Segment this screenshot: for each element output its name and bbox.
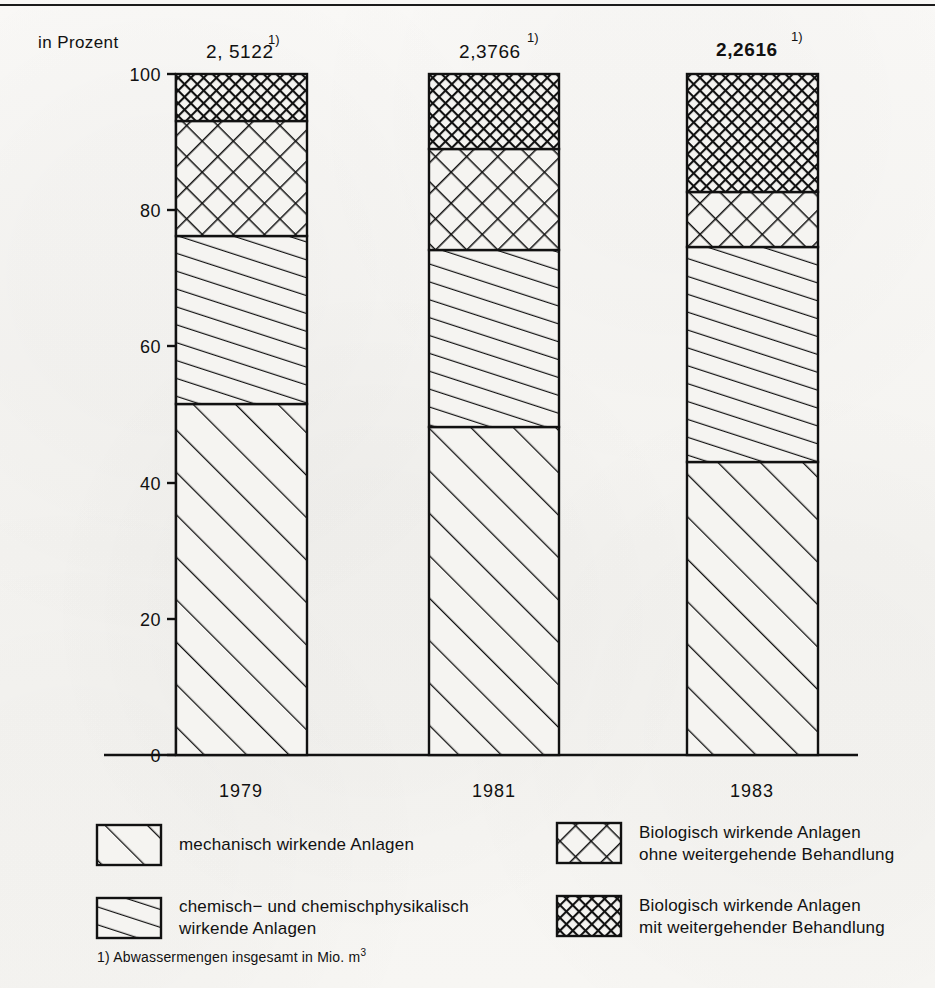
y-axis [167, 73, 176, 755]
x-tick-label-1979: 1979 [219, 781, 263, 801]
bar-total-superscript-1981: 1) [527, 30, 539, 45]
y-axis-unit-label: in Prozent [38, 33, 119, 52]
bar-segment-mechanisch-1983[interactable] [687, 462, 818, 755]
bar-segment-bio-mit-1983[interactable] [687, 74, 818, 192]
bar-segment-bio-mit-1981[interactable] [429, 74, 559, 149]
chart-page: 100 80 60 40 20 0 in Prozent 2, 5122 1) … [0, 0, 935, 988]
bar-segment-bio-ohne-1981[interactable] [429, 149, 559, 250]
bar-segment-mechanisch-1979[interactable] [176, 404, 307, 755]
legend-swatch-mechanisch[interactable] [97, 825, 161, 865]
legend-label-bio-mit: Biologisch wirkende Anlagen mit weiterge… [639, 895, 929, 940]
y-tick-label-40: 40 [140, 474, 161, 494]
bar-group-1981[interactable] [429, 74, 559, 755]
bar-segment-bio-ohne-1983[interactable] [687, 192, 818, 247]
bar-segment-bio-ohne-1979[interactable] [176, 121, 307, 236]
footnote-superscript: 3 [360, 947, 366, 958]
bar-group-1983[interactable] [687, 74, 818, 755]
stacked-bar-chart: 100 80 60 40 20 0 in Prozent 2, 5122 1) … [0, 0, 935, 988]
bar-segment-chemisch-1981[interactable] [429, 250, 559, 427]
footnote-text: 1) Abwassermengen insgesamt in Mio. m [97, 949, 360, 965]
bar-total-label-1983: 2,2616 [716, 39, 778, 60]
y-tick-label-80: 80 [140, 201, 161, 221]
legend-swatch-bio-mit[interactable] [557, 896, 621, 936]
y-tick-label-100: 100 [129, 65, 161, 85]
legend-swatch-chemisch[interactable] [97, 898, 161, 938]
x-tick-label-1981: 1981 [472, 781, 516, 801]
y-tick-label-0: 0 [150, 746, 161, 766]
x-tick-label-1983: 1983 [730, 781, 774, 801]
bar-total-superscript-1979: 1) [268, 32, 280, 47]
legend-label-mechanisch: mechanisch wirkende Anlagen [179, 834, 529, 856]
bar-total-label-1981: 2,3766 [459, 41, 521, 62]
bar-segment-mechanisch-1981[interactable] [429, 427, 559, 755]
bar-group-1979[interactable] [176, 74, 307, 755]
y-tick-label-20: 20 [140, 610, 161, 630]
bar-total-superscript-1983: 1) [791, 29, 803, 44]
y-tick-label-60: 60 [140, 337, 161, 357]
bar-total-label-1979: 2, 5122 [206, 41, 274, 62]
bar-segment-bio-mit-1979[interactable] [176, 74, 307, 121]
bar-segment-chemisch-1983[interactable] [687, 247, 818, 462]
bar-segment-chemisch-1979[interactable] [176, 236, 307, 404]
legend-swatch-bio-ohne[interactable] [557, 823, 621, 863]
legend-label-chemisch: chemisch− und chemischphysikalisch wirke… [179, 896, 549, 941]
legend-label-bio-ohne: Biologisch wirkende Anlagen ohne weiterg… [639, 822, 929, 867]
footnote: 1) Abwassermengen insgesamt in Mio. m3 [97, 947, 366, 965]
